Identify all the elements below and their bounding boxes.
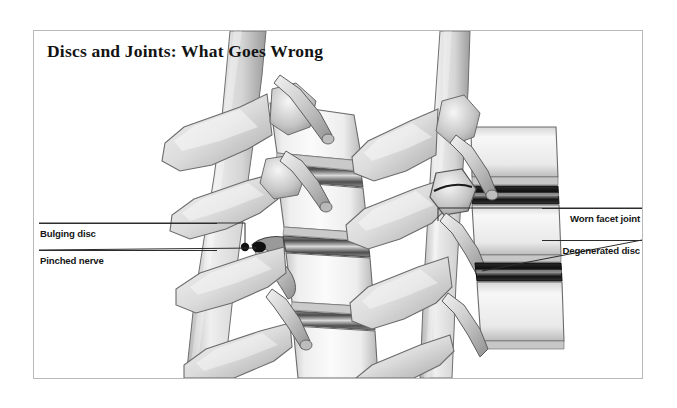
pinch-point-marker	[252, 242, 266, 253]
spine-illustration	[34, 31, 642, 378]
callout-label-worn-facet-joint: Worn facet joint	[542, 209, 642, 224]
callout-label-pinched-nerve: Pinched nerve	[39, 251, 217, 266]
callout-pinched-nerve: Pinched nerve	[39, 250, 217, 266]
callout-label-degenerated-disc: Degenerated disc	[542, 241, 642, 256]
figure-frame: Discs and Joints: What Goes Wrong Bulgin…	[33, 30, 643, 379]
callout-worn-facet-joint: Worn facet joint	[542, 208, 642, 224]
panel-left-spine	[162, 31, 378, 378]
vertebral-body-R3	[477, 282, 564, 341]
leader-dot-bulging-disc	[241, 243, 249, 251]
panel-right-spine	[346, 31, 564, 378]
page-title: Discs and Joints: What Goes Wrong	[47, 41, 323, 62]
callout-degenerated-disc: Degenerated disc	[542, 240, 642, 256]
callout-label-bulging-disc: Bulging disc	[39, 224, 217, 239]
callout-bulging-disc: Bulging disc	[39, 223, 217, 239]
